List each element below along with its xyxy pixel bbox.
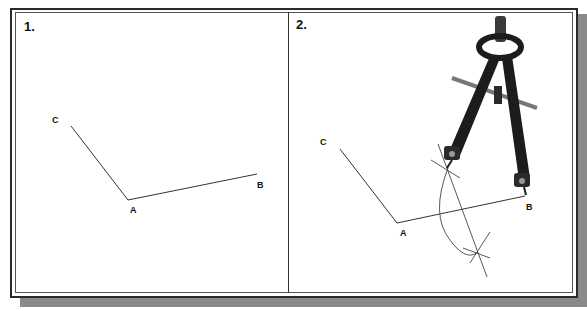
panel-2-label-a: A [400, 228, 407, 238]
panel-2-angle [340, 149, 525, 223]
construction-arcs [431, 144, 490, 277]
panel-1-label-b: B [257, 180, 264, 190]
panel-1-angle [71, 126, 257, 200]
geometry-drawing [0, 0, 587, 311]
panel-1-label-a: A [130, 205, 137, 215]
compass-icon [444, 16, 537, 195]
panel-2-label-b: B [526, 202, 533, 212]
panel-1-label-c: C [52, 115, 59, 125]
panel-2-label-c: C [320, 137, 327, 147]
